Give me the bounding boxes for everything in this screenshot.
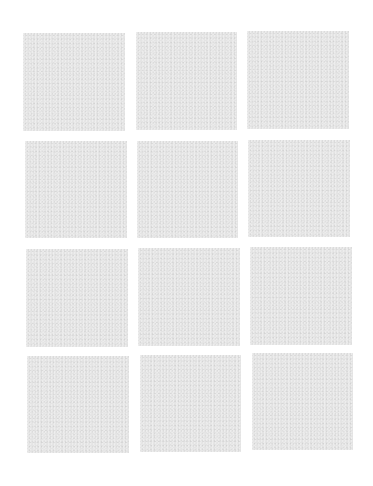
gray-tile-r4-c3	[252, 353, 353, 450]
gray-tile-r2-c3	[248, 140, 350, 237]
gray-tile-r1-c3	[247, 31, 349, 129]
gray-tile-r2-c1	[25, 141, 127, 238]
tile-grid	[0, 0, 373, 486]
gray-tile-r4-c1	[27, 356, 129, 453]
gray-tile-r3-c2	[138, 248, 240, 346]
gray-tile-r2-c2	[137, 141, 238, 238]
gray-tile-r1-c1	[23, 33, 125, 131]
gray-tile-r3-c1	[26, 249, 128, 347]
gray-tile-r1-c2	[136, 32, 237, 130]
gray-tile-r3-c3	[250, 247, 352, 345]
gray-tile-r4-c2	[140, 355, 241, 452]
